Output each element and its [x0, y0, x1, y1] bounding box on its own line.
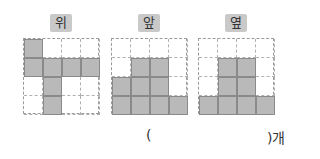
view-label-side: 옆: [225, 14, 247, 32]
filled-cell: [218, 77, 237, 96]
filled-cell: [169, 96, 188, 115]
view-label-front: 앞: [138, 14, 160, 32]
filled-cell: [81, 58, 100, 77]
empty-cell: [62, 96, 81, 115]
filled-cell: [199, 96, 218, 115]
answer-blank[interactable]: [160, 127, 260, 145]
empty-cell: [169, 77, 188, 96]
filled-cell: [237, 96, 256, 115]
empty-cell: [43, 39, 62, 58]
empty-cell: [62, 77, 81, 96]
filled-cell: [218, 96, 237, 115]
empty-cell: [199, 39, 218, 58]
grid-top: [23, 38, 99, 114]
empty-cell: [112, 58, 131, 77]
empty-cell: [256, 39, 275, 58]
filled-cell: [43, 77, 62, 96]
close-paren-unit: )개: [267, 127, 285, 147]
filled-cell: [43, 96, 62, 115]
empty-cell: [81, 96, 100, 115]
empty-cell: [169, 39, 188, 58]
empty-cell: [62, 39, 81, 58]
empty-cell: [218, 39, 237, 58]
view-label-top: 위: [50, 14, 72, 32]
filled-cell: [256, 96, 275, 115]
filled-cell: [237, 77, 256, 96]
filled-cell: [150, 77, 169, 96]
empty-cell: [24, 96, 43, 115]
empty-cell: [112, 39, 131, 58]
filled-cell: [131, 58, 150, 77]
filled-cell: [237, 58, 256, 77]
empty-cell: [199, 77, 218, 96]
empty-cell: [199, 58, 218, 77]
filled-cell: [43, 58, 62, 77]
grid-front: [111, 38, 187, 114]
unit-label: 개: [272, 130, 285, 146]
filled-cell: [218, 58, 237, 77]
empty-cell: [131, 39, 150, 58]
filled-cell: [112, 77, 131, 96]
empty-cell: [150, 39, 169, 58]
filled-cell: [131, 77, 150, 96]
filled-cell: [150, 96, 169, 115]
empty-cell: [256, 77, 275, 96]
empty-cell: [81, 77, 100, 96]
filled-cell: [150, 58, 169, 77]
grid-side: [198, 38, 274, 114]
filled-cell: [24, 58, 43, 77]
empty-cell: [81, 39, 100, 58]
filled-cell: [131, 96, 150, 115]
empty-cell: [237, 39, 256, 58]
filled-cell: [24, 39, 43, 58]
filled-cell: [112, 96, 131, 115]
empty-cell: [256, 58, 275, 77]
open-paren: (: [146, 127, 151, 143]
filled-cell: [62, 58, 81, 77]
empty-cell: [24, 77, 43, 96]
empty-cell: [169, 58, 188, 77]
